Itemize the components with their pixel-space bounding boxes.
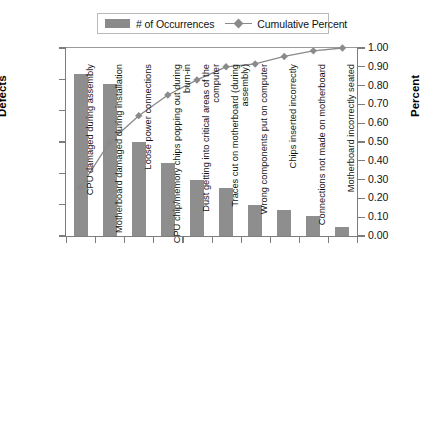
y-axis-right-tick-label: 0.50: [368, 135, 388, 147]
y-axis-right-tick-label: 0.20: [368, 191, 388, 203]
y-axis-right-tick-label: 0.40: [368, 154, 388, 166]
chart-legend: # of Occurrences Cumulative Percent: [97, 13, 329, 34]
y-axis-right-tick-label: 0.90: [368, 60, 388, 72]
line-data-point: [281, 53, 288, 60]
legend-label-occurrences: # of Occurrences: [136, 18, 214, 30]
x-axis-category-label: CPU damaged during assembly: [85, 64, 95, 249]
x-axis-category-label: CPU chip/memory chips popping out during…: [172, 64, 193, 249]
y-axis-right-tick-label: 0.70: [368, 97, 388, 109]
y-axis-right-tick: [358, 85, 365, 86]
y-axis-right-tick: [358, 198, 365, 199]
line-marker-icon: [225, 19, 252, 28]
y-axis-left-tick: [59, 204, 66, 205]
y-axis-left-tick: [59, 235, 66, 236]
x-axis-tick: [328, 237, 329, 243]
x-axis-category-label: Loose power connections: [143, 64, 153, 249]
y-axis-right-tick: [358, 47, 365, 48]
y-axis-right-tick-label: 0.30: [368, 173, 388, 185]
y-axis-left-title: Defects: [0, 75, 8, 117]
y-axis-right-tick-label: 0.00: [368, 229, 388, 241]
legend-item-occurrences: # of Occurrences: [105, 18, 214, 30]
y-axis-left-tick: [59, 141, 66, 142]
x-axis-category-label: Wrong components put on computer: [259, 64, 269, 249]
legend-item-cumulative: Cumulative Percent: [225, 18, 347, 30]
line-data-point: [222, 63, 229, 70]
line-data-point: [251, 60, 258, 67]
y-axis-left-tick: [59, 173, 66, 174]
y-axis-right-tick-label: 0.80: [368, 79, 388, 91]
line-data-point: [77, 183, 84, 190]
y-axis-right-tick-label: 0.60: [368, 116, 388, 128]
y-axis-left-tick: [59, 47, 66, 48]
x-axis-category-label: Motherboard incorrectly seated: [346, 64, 356, 249]
legend-label-cumulative: Cumulative Percent: [257, 18, 347, 30]
line-data-point: [339, 44, 346, 51]
y-axis-right-tick: [358, 123, 365, 124]
y-axis-right-tick: [358, 104, 365, 105]
x-axis-tick: [299, 237, 300, 243]
y-axis-left-tick: [59, 110, 66, 111]
x-axis-tick: [153, 237, 154, 243]
x-axis-category-label: Chips inserted incorrectly: [288, 64, 298, 249]
line-data-point: [193, 76, 200, 83]
x-axis-category-label: Motherboard damaged during installation: [114, 64, 124, 249]
y-axis-right-tick-label: 1.00: [368, 41, 388, 53]
line-data-point: [310, 47, 317, 54]
y-axis-right-tick: [358, 141, 365, 142]
bar-swatch-icon: [105, 19, 130, 28]
x-axis-tick: [357, 237, 358, 243]
x-axis-category-label: Dust getting into critical areas of the …: [201, 64, 222, 249]
x-axis-tick: [66, 237, 67, 243]
y-axis-right-tick: [358, 217, 365, 218]
x-axis-category-label: Connections not made on motherboard: [317, 64, 327, 249]
x-axis-tick: [270, 237, 271, 243]
y-axis-right-tick: [358, 235, 365, 236]
y-axis-right-tick-label: 0.10: [368, 210, 388, 222]
y-axis-left-tick: [59, 79, 66, 80]
y-axis-right-tick: [358, 160, 365, 161]
y-axis-right-title: Percent: [409, 75, 421, 117]
y-axis-right-tick: [358, 66, 365, 67]
x-axis-category-label: Traces cut on motherboard (during assemb…: [230, 64, 251, 249]
y-axis-right-tick: [358, 179, 365, 180]
